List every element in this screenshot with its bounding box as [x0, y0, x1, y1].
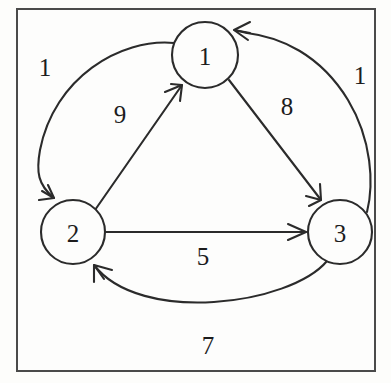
edge-weight-1-to-2: 1: [39, 54, 52, 82]
edge-weight-3-to-1: 1: [354, 62, 367, 90]
edge-1-to-3-arrowhead: [306, 184, 321, 206]
edge-2-to-1-line: [95, 85, 182, 210]
edge-1-to-2-line: [38, 43, 174, 198]
node-2-label: 2: [67, 220, 80, 248]
edge-2-to-3-line-group: [106, 224, 306, 240]
edge-weight-2-to-3: 5: [197, 243, 210, 271]
edge-1-to-2-arc: [38, 43, 174, 200]
edge-weight-3-to-2: 7: [202, 332, 215, 360]
edge-3-to-2-line: [94, 261, 327, 303]
edge-3-to-2-arc: [94, 261, 327, 303]
edge-weight-1-to-3: 8: [281, 93, 294, 121]
edge-weight-2-to-1: 9: [114, 101, 127, 129]
edge-1-to-2-arrowhead: [39, 185, 54, 200]
node-1-label: 1: [199, 43, 212, 71]
node-3-label: 3: [334, 220, 347, 248]
edge-1-to-3-line: [229, 80, 321, 200]
diagram-canvas: 1 2 3 1 1 9 8 5 7: [0, 0, 391, 383]
graph-drawing: [0, 0, 391, 383]
edge-1-to-3-line-group: [229, 80, 321, 206]
edge-3-to-1-arc: [234, 22, 371, 212]
edge-2-to-1-line-group: [95, 84, 182, 210]
